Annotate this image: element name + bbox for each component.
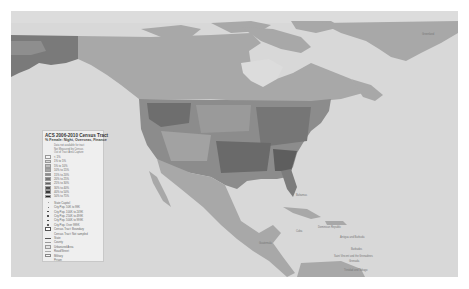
map-label-guatemala: Guatemala <box>259 242 272 245</box>
map-label-grenada: Grenada <box>349 260 359 263</box>
military-box-icon <box>45 254 51 258</box>
county-line-icon <box>45 242 51 243</box>
map-label-greenland: Greenland <box>422 33 434 36</box>
swatch-icon <box>45 173 51 177</box>
swatch-icon <box>45 155 51 159</box>
swatch-icon <box>45 164 51 168</box>
map-label-barbados: Barbados <box>351 248 362 251</box>
city-dot-icon <box>45 219 51 223</box>
swatch-icon <box>45 177 51 181</box>
swatch-icon <box>45 195 51 199</box>
map-label-bahamas: Bahamas <box>296 194 307 197</box>
boundary-box-icon <box>45 227 51 231</box>
road-line-icon <box>45 251 51 252</box>
legend-other: Prison <box>45 258 101 262</box>
map-label-trinidad: Trinidad and Tobago <box>344 269 368 272</box>
swatch-icon <box>45 190 51 194</box>
city-dot-icon <box>45 205 51 209</box>
map-label-st-vincent: Saint Vincent and the Grenadines <box>334 255 373 258</box>
city-dot-icon <box>45 214 51 218</box>
map-label-dominican-republic: Dominican Republic <box>318 226 341 229</box>
star-icon <box>45 201 51 205</box>
map-label-antigua: Antigua and Barbuda <box>340 236 364 239</box>
city-dot-icon <box>45 223 51 227</box>
map-legend: ACS 2006-2010 Census Tract % Female: Nig… <box>42 130 104 262</box>
swatch-icon <box>45 186 51 190</box>
swatch-icon <box>45 182 51 186</box>
city-dot-icon <box>45 210 51 214</box>
legend-subtitle: % Female: Night, Overseas, Finance <box>45 138 101 143</box>
map-label-cuba: Cuba <box>296 230 302 233</box>
swatch-icon <box>45 160 51 164</box>
swatch-icon <box>45 168 51 172</box>
urban-area-icon <box>45 245 51 249</box>
state-line-icon <box>45 238 51 239</box>
